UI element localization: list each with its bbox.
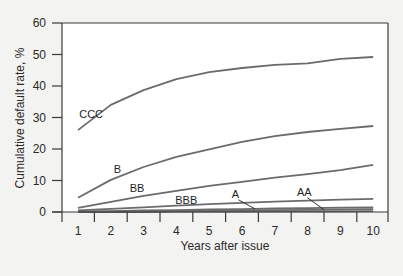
series-label-bb: BB xyxy=(130,182,145,194)
x-tick-label: 5 xyxy=(206,224,213,238)
x-tick-label: 6 xyxy=(239,224,246,238)
x-tick-label: 2 xyxy=(107,224,114,238)
x-tick-label: 10 xyxy=(367,224,381,238)
x-axis-title: Years after issue xyxy=(181,239,270,253)
y-tick-label: 40 xyxy=(33,79,47,93)
series-label-ccc: CCC xyxy=(79,108,103,120)
y-axis-ticks: 0102030405060 xyxy=(33,16,62,219)
x-tick-label: 8 xyxy=(304,224,311,238)
y-tick-label: 0 xyxy=(39,205,46,219)
series-label-bbb: BBB xyxy=(175,194,197,206)
x-tick-label: 9 xyxy=(337,224,344,238)
y-tick-label: 20 xyxy=(33,142,47,156)
series-label-b: B xyxy=(114,163,121,175)
x-tick-label: 1 xyxy=(75,224,82,238)
chart: 0102030405060 12345678910 CCCBBBBBBAAA Y… xyxy=(0,0,403,276)
x-tick-label: 7 xyxy=(271,224,278,238)
series-label-a: A xyxy=(232,188,240,200)
y-tick-label: 60 xyxy=(33,16,47,30)
line-chart: 0102030405060 12345678910 CCCBBBBBBAAA Y… xyxy=(0,0,403,276)
x-tick-label: 4 xyxy=(173,224,180,238)
y-tick-label: 10 xyxy=(33,174,47,188)
x-axis-ticks: 12345678910 xyxy=(75,212,381,238)
x-tick-label: 3 xyxy=(140,224,147,238)
series-label-aa: AA xyxy=(297,186,312,198)
y-tick-label: 50 xyxy=(33,48,47,62)
y-tick-label: 30 xyxy=(33,111,47,125)
y-axis-title: Cumulative default rate, % xyxy=(13,47,27,188)
